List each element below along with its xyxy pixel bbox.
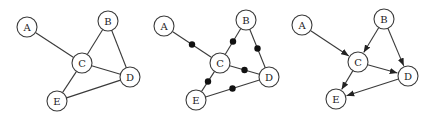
subdivision-dot-B-D [254,45,260,51]
edge-B-C [87,30,102,55]
node-a: A [292,15,312,35]
edge-B-C [364,28,379,53]
node-label: C [78,58,86,69]
edge-C-E [62,71,76,92]
node-label: E [53,96,60,107]
node-d: D [120,67,140,87]
node-label: A [297,20,306,31]
node-label: E [192,95,199,106]
edge-A-C [310,31,348,56]
edge-C-E [342,71,353,90]
node-b: B [98,11,118,31]
node-b: B [374,9,394,29]
node-c: C [72,53,92,73]
node-d: D [259,67,279,87]
graph-subdivided: ABCDE [154,10,279,110]
node-c: C [348,52,368,72]
node-e: E [326,89,346,109]
node-label: E [332,94,339,105]
node-label: D [404,71,412,82]
node-d: D [398,66,418,86]
graph-directed: ABCDE [292,9,418,109]
edge-C-D [92,66,121,74]
edge-B-D [112,30,127,67]
edge-B-D [388,28,404,66]
node-label: B [104,16,111,27]
node-c: C [210,53,230,73]
subdivision-dot-A-C [189,41,195,47]
node-e: E [47,91,67,111]
subdivision-dot-E-D [229,85,235,91]
graph-undirected: ABCDE [17,11,140,111]
node-label: D [126,72,134,83]
node-e: E [186,90,206,110]
edge-D-E [346,79,398,96]
edge-A-C [35,32,73,57]
node-label: A [22,22,31,33]
node-label: B [242,15,249,26]
subdivision-dot-C-D [241,67,247,73]
node-b: B [236,10,256,30]
node-a: A [154,16,174,36]
edge-E-D [66,80,120,98]
node-label: A [159,21,168,32]
node-label: D [265,72,273,83]
subdivision-dot-C-E [205,78,211,84]
node-label: C [216,58,224,69]
subdivision-dot-B-C [230,38,236,44]
node-label: B [380,14,387,25]
edge-C-D [368,65,398,73]
node-a: A [17,17,37,37]
graph-diagram-canvas: ABCDEABCDEABCDE [0,0,435,120]
node-label: C [354,57,362,68]
